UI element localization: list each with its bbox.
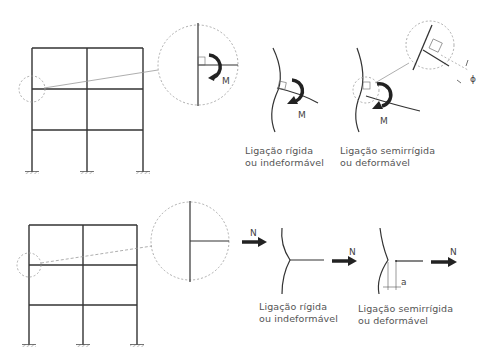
caption-bottom-semirigid: Ligação semirrígida ou deformável	[358, 303, 453, 327]
rotation-symbol: ϕ	[470, 74, 476, 84]
axial-force-arrow-icon	[242, 237, 267, 247]
moment-symbol: M	[222, 76, 230, 86]
caption-line: Ligação rígida	[245, 145, 324, 157]
caption-line: ou deformável	[340, 157, 435, 169]
top-fixed-supports	[25, 171, 150, 174]
moment-arrow-icon	[287, 80, 302, 104]
moment-symbol: M	[298, 110, 306, 120]
top-detail-callout	[19, 23, 238, 106]
caption-line: Ligação rígida	[259, 301, 338, 313]
moment-symbol: M	[380, 116, 388, 126]
force-symbol: N	[349, 247, 356, 257]
caption-top-rigid: Ligação rígida ou indeformável	[245, 145, 324, 169]
force-symbol: N	[450, 247, 457, 257]
force-symbol: N	[250, 228, 257, 238]
axial-force-arrow-icon	[431, 257, 457, 267]
top-frame	[32, 48, 143, 172]
top-rigid-connection	[272, 48, 318, 132]
caption-line: ou indeformável	[245, 157, 324, 169]
bottom-detail-callout	[17, 201, 229, 282]
caption-line: Ligação semirrígida	[358, 303, 453, 315]
bottom-frame	[29, 225, 137, 345]
caption-bottom-rigid: Ligação rígida ou indeformável	[259, 301, 338, 325]
caption-line: ou deformável	[358, 315, 453, 327]
moment-arrow-icon	[372, 84, 391, 109]
caption-line: Ligação semirrígida	[340, 145, 435, 157]
caption-line: ou indeformável	[259, 313, 338, 325]
moment-arrow-icon	[208, 55, 220, 81]
displacement-symbol: a	[401, 277, 407, 287]
bottom-rigid-connection	[282, 228, 324, 294]
structural-connection-diagram: M M M ϕ	[0, 0, 480, 350]
caption-top-semirigid: Ligação semirrígida ou deformável	[340, 145, 435, 169]
bottom-fixed-supports	[22, 344, 144, 347]
axial-force-arrow-icon	[332, 256, 357, 266]
top-semirigid-connection	[353, 21, 468, 132]
